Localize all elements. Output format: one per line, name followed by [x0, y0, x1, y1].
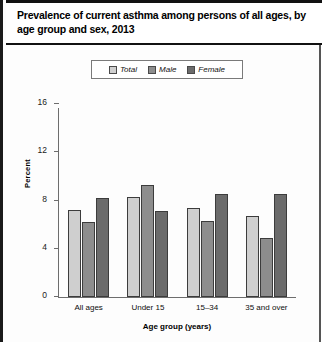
y-axis-tick-label: 4	[42, 242, 47, 252]
bar-female	[96, 198, 109, 297]
bar-group: 35 and over	[237, 104, 296, 297]
bar-group: Under 15	[118, 104, 177, 297]
bar-male	[82, 222, 95, 297]
bar-female	[155, 211, 168, 297]
legend-swatch-male	[148, 66, 156, 74]
bar-male	[260, 238, 273, 297]
bar-male	[141, 185, 154, 297]
y-axis-tick-label: 0	[42, 290, 47, 300]
bar-total	[187, 208, 200, 297]
x-axis-line	[58, 297, 296, 298]
bars-layer: All agesUnder 1515–3435 and over	[59, 104, 296, 297]
y-axis-tick-label: 8	[42, 194, 47, 204]
bar-female	[215, 194, 228, 297]
bar-male	[201, 221, 214, 297]
title-band: Prevalence of current asthma among perso…	[6, 0, 322, 45]
legend-swatch-total	[109, 66, 117, 74]
legend-item-male: Male	[148, 65, 176, 74]
bar-female	[274, 194, 287, 297]
bar-total	[127, 197, 140, 297]
bar-total	[246, 216, 259, 297]
x-axis-tick-label: All ages	[74, 303, 102, 312]
y-axis-tick-label: 16	[38, 97, 47, 107]
x-axis-title: Age group (years)	[58, 322, 296, 331]
bar-group: 15–34	[178, 104, 237, 297]
plot-area: 0481216 All agesUnder 1515–3435 and over	[58, 104, 296, 298]
bar-group: All ages	[59, 104, 118, 297]
x-axis-tick-label: Under 15	[131, 303, 164, 312]
y-axis-title: Percent	[23, 159, 32, 188]
legend-label-total: Total	[120, 65, 137, 74]
x-axis-tick-label: 15–34	[196, 303, 218, 312]
y-axis-tick-label: 12	[38, 145, 47, 155]
legend-item-female: Female	[187, 65, 225, 74]
bar-total	[68, 210, 81, 297]
page-title: Prevalence of current asthma among perso…	[17, 9, 312, 36]
legend-label-male: Male	[159, 65, 176, 74]
legend-swatch-female	[187, 66, 195, 74]
x-axis-tick-label: 35 and over	[245, 303, 287, 312]
legend-label-female: Female	[198, 65, 225, 74]
legend-item-total: Total	[109, 65, 137, 74]
chart-legend: Total Male Female	[91, 60, 243, 79]
